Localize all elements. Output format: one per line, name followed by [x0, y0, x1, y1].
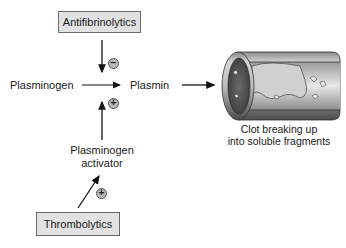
- clot-caption: Clot breaking up into soluble fragments: [220, 123, 338, 147]
- plasminogen-activator-label: Plasminogen activator: [66, 144, 138, 170]
- plus-sign-icon-thrombolytics: +: [96, 188, 107, 199]
- activator-line-1: Plasminogen: [66, 144, 138, 157]
- plasmin-label: Plasmin: [130, 79, 169, 92]
- minus-sign-icon: −: [108, 58, 119, 69]
- antifibrinolytics-box: Antifibrinolytics: [58, 11, 141, 33]
- thrombolytics-label: Thrombolytics: [44, 218, 112, 230]
- plus-sign-icon: +: [108, 98, 119, 109]
- clot-caption-line-2: into soluble fragments: [220, 135, 338, 147]
- plasminogen-label: Plasminogen: [10, 79, 74, 92]
- antifibrinolytics-label: Antifibrinolytics: [63, 16, 136, 28]
- clot-caption-line-1: Clot breaking up: [220, 123, 338, 135]
- activator-line-2: activator: [66, 157, 138, 170]
- blood-vessel-illustration: [222, 52, 340, 120]
- thrombolytics-box: Thrombolytics: [36, 212, 120, 236]
